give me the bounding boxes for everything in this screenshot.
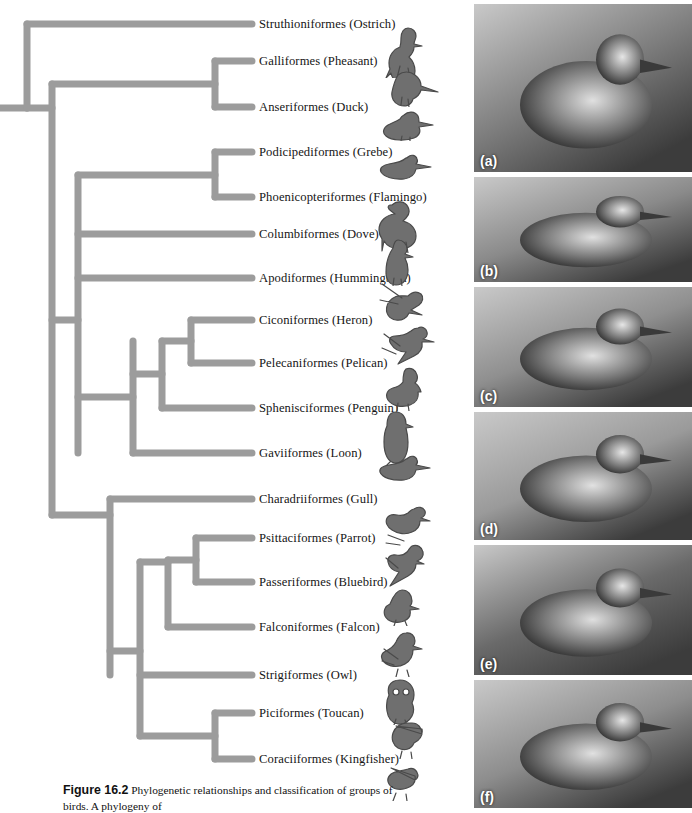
taxon-label-charadriiformes: Charadriiformes (Gull) bbox=[259, 493, 378, 506]
grebe-photo: (d) bbox=[474, 412, 692, 540]
taxon-label-pelecaniformes: Pelecaniformes (Pelican) bbox=[259, 357, 388, 370]
taxon-label-strigiformes: Strigiformes (Owl) bbox=[259, 669, 357, 682]
figure-caption: Figure 16.2 Phylogenetic relationships a… bbox=[63, 783, 393, 813]
phylogenetic-tree-diagram: Struthioniformes (Ostrich)Galliformes (P… bbox=[0, 0, 470, 803]
figure-number: Figure 16.2 bbox=[63, 783, 128, 797]
panel-letter: (d) bbox=[480, 521, 498, 537]
taxon-label-ciconiiformes: Ciconiformes (Heron) bbox=[259, 314, 373, 327]
taxon-label-coraciiformes: Coraciiformes (Kingfisher) bbox=[259, 753, 399, 766]
ostrich-head-photo: (a) bbox=[474, 4, 692, 172]
taxon-label-passeriformes: Passeriformes (Bluebird) bbox=[259, 576, 388, 589]
taxon-label-columbiformes: Columbiformes (Dove) bbox=[259, 228, 379, 241]
flamingo-photo: (e) bbox=[474, 545, 692, 675]
dove-photo: (f) bbox=[474, 680, 692, 808]
taxon-label-podicipediformes: Podicipediformes (Grebe) bbox=[259, 146, 393, 159]
panel-letter: (f) bbox=[480, 789, 494, 805]
taxon-label-phoenicopteriformes: Phoenicopteriformes (Flamingo) bbox=[259, 191, 427, 204]
panel-letter: (b) bbox=[480, 263, 498, 279]
taxon-label-piciformes: Piciformes (Toucan) bbox=[259, 707, 364, 720]
taxon-label-sphenisciformes: Sphenisciformes (Penguin) bbox=[259, 402, 398, 415]
taxon-label-psittaciformes: Psittaciformes (Parrot) bbox=[259, 532, 376, 545]
taxon-label-apodiformes: Apodiformes (Hummingbird) bbox=[259, 272, 411, 285]
taxon-label-gaviiformes: Gaviiformes (Loon) bbox=[259, 447, 362, 460]
taxon-label-galliformes: Galliformes (Pheasant) bbox=[259, 55, 378, 68]
duck-photo: (c) bbox=[474, 287, 692, 407]
panel-letter: (a) bbox=[480, 153, 497, 169]
cladogram-branches bbox=[0, 0, 470, 803]
taxon-label-falconiformes: Falconiformes (Falcon) bbox=[259, 621, 380, 634]
pheasant-quail-photo: (b) bbox=[474, 177, 692, 282]
taxon-label-anseriformes: Anseriformes (Duck) bbox=[259, 101, 368, 114]
taxon-label-struthioniformes: Struthioniformes (Ostrich) bbox=[259, 18, 396, 31]
photo-panel-column: (a)(b)(c)(d)(e)(f) bbox=[474, 4, 692, 813]
panel-letter: (c) bbox=[480, 388, 497, 404]
panel-letter: (e) bbox=[480, 656, 497, 672]
